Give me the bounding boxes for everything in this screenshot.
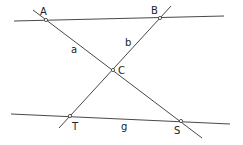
label-a-point: A (40, 6, 47, 17)
point-a (44, 18, 47, 21)
point-s (179, 119, 182, 122)
point-b (158, 16, 161, 19)
label-line-a: a (71, 44, 77, 55)
label-s-point: S (174, 125, 180, 136)
geometry-diagram: A B C T S a b g (0, 0, 243, 145)
line-b (59, 6, 171, 128)
label-t-point: T (71, 121, 79, 132)
point-t (68, 114, 71, 117)
label-b-point: B (151, 5, 158, 16)
label-line-b: b (125, 37, 131, 48)
label-c-point: C (118, 65, 125, 76)
point-c (111, 68, 114, 71)
label-line-g: g (121, 121, 127, 132)
